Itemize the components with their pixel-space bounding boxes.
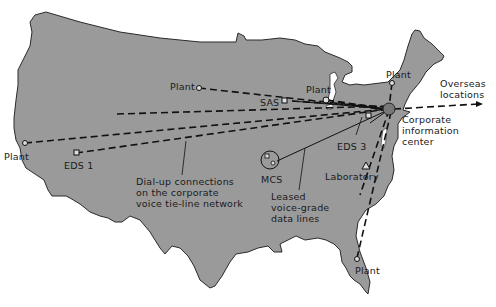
eds3-label: EDS 3	[337, 141, 366, 152]
corporate-information-center-label: Corporate information center	[402, 114, 459, 147]
plant-midwest-node	[197, 86, 202, 91]
eds1-label: EDS 1	[64, 160, 93, 171]
plant-florida-label: Plant	[355, 265, 380, 276]
eds1-node	[74, 150, 79, 155]
plant-newengland-node	[390, 81, 395, 86]
laboratory-label: Laboratory	[325, 171, 379, 182]
sas-node	[282, 98, 287, 103]
plant-west-node	[23, 141, 28, 146]
plant-greatlakes-node	[323, 97, 329, 103]
overseas-arrow-head	[476, 101, 483, 107]
plant-florida-node	[355, 257, 360, 262]
overseas-locations-label: Overseas locations	[440, 78, 486, 100]
sas-label: SAS	[260, 97, 279, 108]
eds3-node	[366, 113, 371, 118]
corporate-information-center-hub	[383, 103, 395, 115]
plant-newengland-label: Plant	[386, 69, 411, 80]
plant-greatlakes-label: Plant	[306, 84, 331, 95]
us-network-map	[0, 0, 496, 307]
plant-midwest-label: Plant	[170, 81, 195, 92]
plant-west-label: Plant	[4, 151, 29, 162]
leased-legend-label: Leased voice-grade data lines	[271, 191, 329, 224]
mcs-label: MCS	[261, 174, 282, 185]
dialup-legend-label: Dial-up connections on the corporate voi…	[136, 176, 243, 209]
